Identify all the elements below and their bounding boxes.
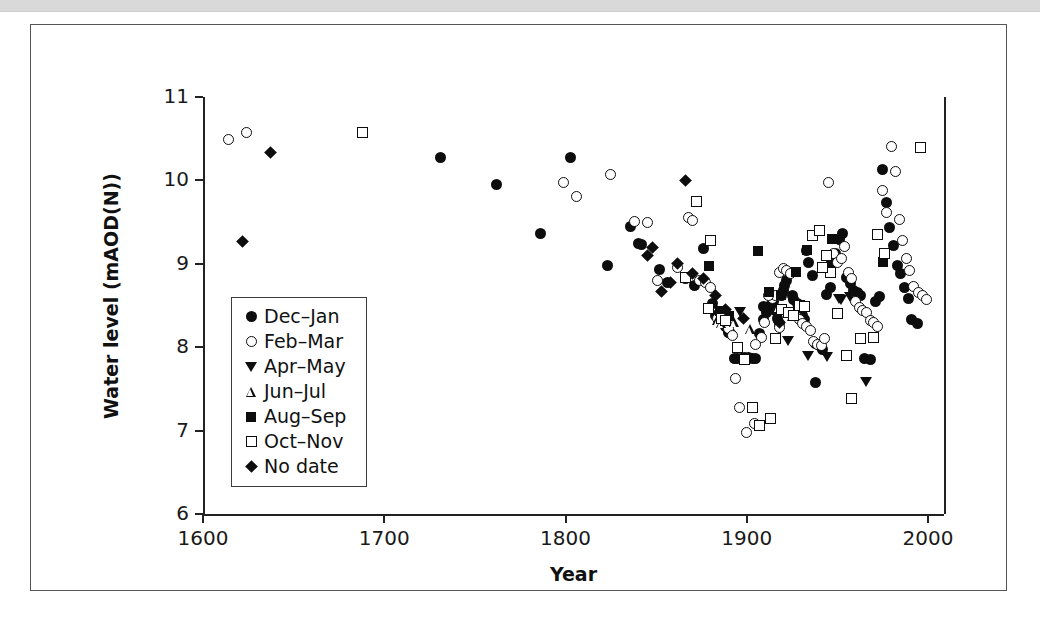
filled-square-glyph [704,261,714,271]
legend-item[interactable]: Aug–Sep [240,404,358,429]
x-axis-line [203,514,944,516]
legend-item[interactable]: No date [240,454,358,479]
filled-circle-glyph [535,228,546,239]
open-circle-glyph [839,241,850,252]
open-circle-glyph [894,214,905,225]
figure-frame: 67891011 16001700180019002000 Dec–JanFeb… [30,24,1007,591]
legend-item[interactable]: Oct–Nov [240,429,358,454]
legend-marker-swatch [240,431,262,453]
filled-triangle-down-glyph [835,295,847,305]
open-circle-glyph [558,177,569,188]
y-axis-tick [195,179,203,181]
open-square-glyph [747,402,758,413]
filled-triangle-down-glyph [782,336,794,346]
open-square-glyph [703,303,714,314]
figure-page: 67891011 16001700180019002000 Dec–JanFeb… [0,0,1040,621]
x-axis-tick-label: 1800 [521,528,611,548]
open-circle-glyph [734,402,745,413]
legend-item-label: Aug–Sep [264,407,346,426]
open-square-glyph [814,225,825,236]
x-axis-tick-label: 1700 [339,528,429,548]
x-axis-tick-label: 2000 [883,528,973,548]
x-axis-right-cap [944,97,946,514]
filled-circle-glyph [758,301,769,312]
legend-item-label: No date [264,457,339,476]
open-circle-glyph [836,253,847,264]
open-square-glyph [739,354,750,365]
open-square-glyph [879,248,890,259]
filled-square-glyph [827,234,837,244]
open-square-glyph [817,262,828,273]
open-triangle-up-glyph [246,387,257,397]
open-square-glyph [799,301,810,312]
x-axis-tick-label: 1600 [158,528,248,548]
open-circle-glyph [901,253,912,264]
open-square-glyph [841,350,852,361]
y-axis-line [203,97,205,514]
open-circle-glyph [741,427,752,438]
filled-triangle-down-glyph [802,351,814,361]
legend-marker-swatch [240,381,262,403]
filled-circle-glyph [884,222,895,233]
open-triangle-up-glyph [745,324,756,334]
y-axis-tick [195,96,203,98]
legend-item[interactable]: Apr–May [240,354,358,379]
x-axis-tick [202,514,204,523]
legend-marker-swatch [240,306,262,328]
open-square-glyph [246,436,257,447]
open-circle-glyph [246,336,257,347]
open-square-glyph [846,393,857,404]
open-square-glyph [855,333,866,344]
y-axis-tick [195,263,203,265]
open-square-glyph [821,250,832,261]
filled-square-glyph [802,245,812,255]
y-axis-tick-label: 11 [129,86,189,106]
filled-circle-glyph [602,260,613,271]
x-axis-title: Year [203,563,944,585]
legend-item-label: Oct–Nov [264,432,343,451]
open-circle-glyph [687,215,698,226]
open-circle-glyph [759,317,770,328]
legend-item[interactable]: Feb–Mar [240,329,358,354]
open-circle-glyph [727,330,738,341]
legend-marker-swatch [240,356,262,378]
open-circle-glyph [629,216,640,227]
legend-item-label: Feb–Mar [264,332,343,351]
open-square-glyph [868,332,879,343]
open-square-glyph [720,315,731,326]
filled-square-glyph [776,290,786,300]
open-circle-glyph [872,321,883,332]
open-square-glyph [915,142,926,153]
open-circle-glyph [890,166,901,177]
open-square-glyph [357,127,368,138]
x-axis-tick-label: 1900 [702,528,792,548]
open-square-glyph [788,310,799,321]
open-square-glyph [832,308,843,319]
filled-circle-glyph [810,377,821,388]
filled-triangle-down-glyph [860,377,872,387]
open-square-glyph [765,413,776,424]
open-circle-glyph [897,235,908,246]
filled-diamond-glyph [245,460,258,473]
legend-item[interactable]: Dec–Jan [240,304,358,329]
open-circle-glyph [881,207,892,218]
y-axis-tick-label: 6 [129,503,189,523]
legend-marker-swatch [240,456,262,478]
legend-item[interactable]: Jun–Jul [240,379,358,404]
filled-square-glyph [764,287,774,297]
filled-circle-glyph [903,293,914,304]
open-square-glyph [872,229,883,240]
open-square-glyph [691,196,702,207]
y-axis-tick-label: 8 [129,336,189,356]
open-circle-glyph [571,191,582,202]
filled-circle-glyph [865,354,876,365]
filled-square-glyph [753,246,763,256]
y-axis-tick [195,430,203,432]
open-circle-glyph [921,294,932,305]
filled-circle-glyph [807,270,818,281]
filled-circle-glyph [874,291,885,302]
y-axis-tick-label: 7 [129,420,189,440]
open-circle-glyph [805,325,816,336]
filled-square-glyph [791,267,801,277]
y-axis-title: Water level (mAOD(N)) [100,146,122,446]
